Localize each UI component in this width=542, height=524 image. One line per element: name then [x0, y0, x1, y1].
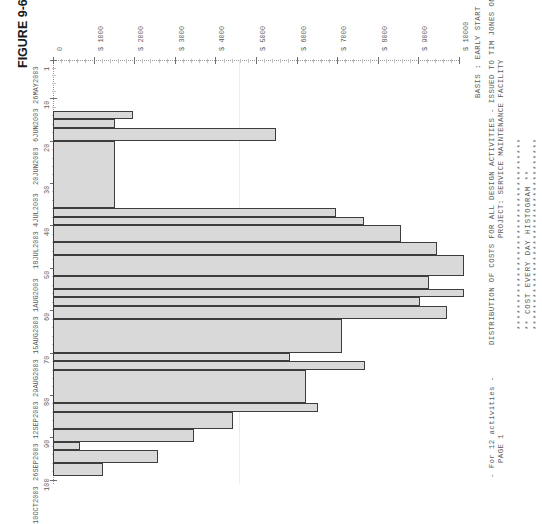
cost-minor-tick — [167, 59, 168, 63]
histogram-bar — [53, 463, 103, 476]
time-tick-number: 80 — [43, 398, 51, 406]
page-number: PAGE 1 — [497, 434, 505, 463]
cost-tick — [378, 57, 379, 64]
cost-tick — [134, 57, 135, 64]
cost-tick-label: 0 — [56, 47, 64, 51]
cost-minor-tick — [142, 59, 143, 63]
time-tick-number: 40 — [43, 228, 51, 236]
histogram-bar — [53, 353, 290, 361]
cost-minor-tick — [329, 59, 330, 63]
stars-bottom-border: ************************************ — [516, 138, 524, 330]
cost-minor-tick — [183, 59, 184, 63]
time-tick-date: 29AUG2003 — [32, 359, 40, 397]
time-minor-tick — [52, 91, 56, 92]
report-subtitle-distribution: DISTRIBUTION OF COSTS FOR ALL DESIGN ACT… — [488, 0, 496, 345]
cost-tick-label: $ 7000 — [340, 26, 348, 51]
cost-tick-label: $ 5000 — [259, 26, 267, 51]
time-tick — [50, 60, 57, 61]
histogram-bar — [53, 225, 401, 242]
time-minor-tick — [52, 83, 56, 84]
cost-tick — [215, 57, 216, 64]
histogram-bar — [53, 141, 115, 209]
time-tick-number: 70 — [43, 355, 51, 363]
cost-minor-tick — [264, 59, 265, 63]
stars-top-border: ************************************ — [532, 138, 540, 330]
time-tick-number: 20 — [43, 143, 51, 151]
cost-tick — [94, 57, 95, 64]
cost-minor-tick — [69, 59, 70, 63]
cost-tick-label: $ 10000 — [462, 22, 470, 51]
cost-minor-tick — [272, 59, 273, 63]
time-tick-number: 10 — [43, 101, 51, 109]
histogram-bar — [53, 242, 437, 255]
time-tick-date: 6JUN2003 — [32, 109, 40, 143]
cost-tick — [175, 57, 176, 64]
histogram-bar — [53, 128, 276, 141]
time-tick-date: 26MAY2003 — [32, 66, 40, 104]
time-tick-date: 10OCT2003 — [32, 486, 40, 524]
cost-tick — [459, 57, 460, 64]
cost-minor-tick — [240, 59, 241, 63]
cost-minor-tick — [126, 59, 127, 63]
report-title-project: PROJECT: SERVICE MAINTENANCE FACILITY — [497, 59, 505, 238]
histogram-bar — [53, 255, 464, 276]
cost-minor-tick — [207, 59, 208, 63]
time-minor-tick — [52, 107, 56, 108]
cost-minor-tick — [232, 59, 233, 63]
cost-tick-label: $ 4000 — [218, 26, 226, 51]
histogram-bar — [53, 361, 365, 369]
cost-minor-tick — [224, 59, 225, 63]
cost-tick — [418, 57, 419, 64]
histogram-bar — [53, 442, 80, 450]
cost-histogram-plot: 0$ 1000$ 2000$ 3000$ 4000$ 5000$ 6000$ 7… — [53, 60, 459, 484]
cost-tick-label: $ 6000 — [300, 26, 308, 51]
cost-minor-tick — [199, 59, 200, 63]
histogram-bar — [53, 319, 342, 353]
report-basis: BASIS : EARLY START — [474, 6, 482, 98]
cost-minor-tick — [402, 59, 403, 63]
cost-minor-tick — [353, 59, 354, 63]
cost-minor-tick — [110, 59, 111, 63]
cost-minor-tick — [410, 59, 411, 63]
time-tick-number: 50 — [43, 270, 51, 278]
cost-tick-label: $ 2000 — [137, 26, 145, 51]
cost-tick-label: $ 1000 — [97, 26, 105, 51]
histogram-bar — [53, 119, 115, 127]
time-tick-date: 4JUL2003 — [32, 193, 40, 227]
cost-minor-tick — [435, 59, 436, 63]
histogram-bar — [53, 429, 194, 442]
histogram-bar — [53, 217, 364, 225]
histogram-bar — [53, 208, 336, 216]
time-tick-date: 1AUG2003 — [32, 278, 40, 312]
time-minor-tick — [52, 68, 56, 69]
cost-minor-tick — [394, 59, 395, 63]
activity-count: - For 12 activities - — [488, 376, 496, 478]
histogram-bar — [53, 450, 158, 463]
figure-caption: FIGURE 9-6 — [16, 0, 30, 68]
cost-minor-tick — [370, 59, 371, 63]
time-tick-number: 100 — [43, 478, 51, 491]
cost-minor-tick — [118, 59, 119, 63]
cost-minor-tick — [280, 59, 281, 63]
histogram-bar — [53, 289, 464, 297]
time-tick-date: 20JUN2003 — [32, 147, 40, 185]
time-tick-date: 26SEP2003 — [32, 444, 40, 482]
cost-minor-tick — [386, 59, 387, 63]
cost-minor-tick — [150, 59, 151, 63]
cost-tick-label: $ 8000 — [381, 26, 389, 51]
time-tick-date: 12SEP2003 — [32, 401, 40, 439]
cost-minor-tick — [102, 59, 103, 63]
cost-minor-tick — [77, 59, 78, 63]
histogram-bar — [53, 306, 447, 319]
cost-minor-tick — [321, 59, 322, 63]
cost-tick — [256, 57, 257, 64]
cost-minor-tick — [443, 59, 444, 63]
histogram-bar — [53, 403, 318, 411]
cost-minor-tick — [345, 59, 346, 63]
cost-minor-tick — [85, 59, 86, 63]
time-tick-number: 90 — [43, 440, 51, 448]
time-tick-number: 60 — [43, 313, 51, 321]
cost-minor-tick — [191, 59, 192, 63]
cost-tick — [297, 57, 298, 64]
cost-minor-tick — [451, 59, 452, 63]
